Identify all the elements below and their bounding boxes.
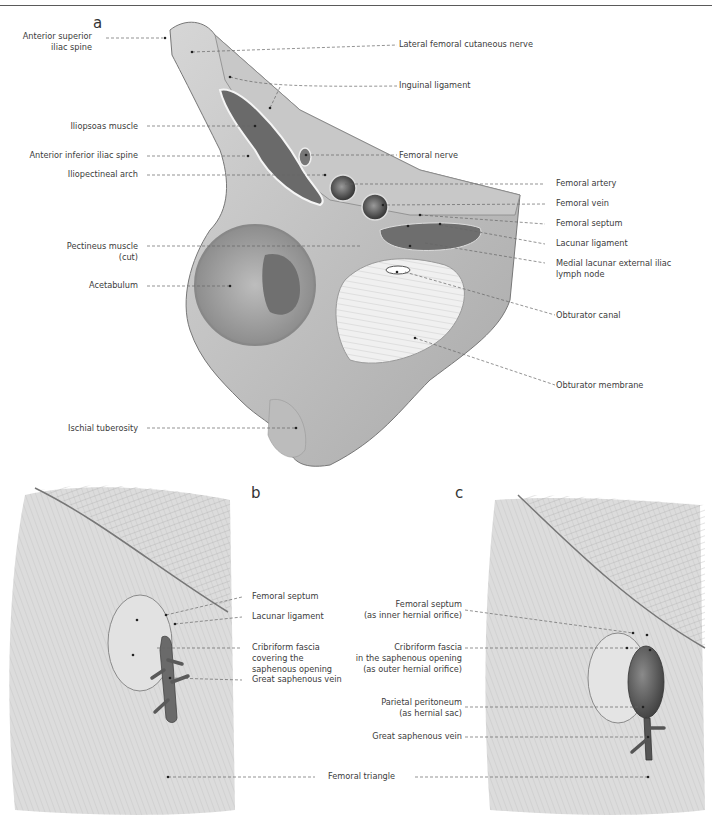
panel-letter-c: c xyxy=(455,484,463,502)
panel-c-femoral-hernia-illustration xyxy=(485,495,705,815)
label-obturator-canal: Obturator canal xyxy=(556,310,621,321)
label-acetabulum: Acetabulum xyxy=(89,280,138,291)
label-line-2: lymph node xyxy=(556,269,671,280)
label-line-2: (as hernial sac) xyxy=(381,708,462,719)
label-line-1: Cribriform fascia xyxy=(252,642,332,653)
panel-b-thigh-illustration xyxy=(9,485,235,814)
label-line-2: (cut) xyxy=(67,252,138,263)
label-c-cribriform-fascia: Cribriform fascia in the saphenous openi… xyxy=(356,642,462,675)
label-c-great-saphenous-vein: Great saphenous vein xyxy=(372,731,462,742)
label-b-lacunar-ligament: Lacunar ligament xyxy=(252,611,324,622)
label-pectineus-muscle: Pectineus muscle (cut) xyxy=(67,241,138,263)
label-lateral-femoral-cutaneous-nerve: Lateral femoral cutaneous nerve xyxy=(399,39,533,50)
label-femoral-triangle: Femoral triangle xyxy=(328,771,395,782)
label-inguinal-ligament: Inguinal ligament xyxy=(399,80,471,91)
label-lacunar-ligament: Lacunar ligament xyxy=(556,238,628,249)
label-femoral-artery: Femoral artery xyxy=(556,178,616,189)
label-iliopsoas-muscle: Iliopsoas muscle xyxy=(70,121,138,132)
label-line-1: Parietal peritoneum xyxy=(381,697,462,708)
label-line-1: Medial lacunar external iliac xyxy=(556,258,671,269)
panel-letter-a: a xyxy=(93,14,102,32)
label-line-2: in the saphenous opening xyxy=(356,653,462,664)
label-line-2: iliac spine xyxy=(23,42,92,53)
label-iliopectineal-arch: Iliopectineal arch xyxy=(68,169,138,180)
label-ischial-tuberosity: Ischial tuberosity xyxy=(68,423,138,434)
label-c-femoral-septum: Femoral septum (as inner hernial orifice… xyxy=(364,599,462,621)
label-b-great-saphenous-vein: Great saphenous vein xyxy=(252,674,342,685)
label-medial-lacunar-lymph-node: Medial lacunar external iliac lymph node xyxy=(556,258,671,280)
panel-letter-b: b xyxy=(251,484,261,502)
label-line-1: Pectineus muscle xyxy=(67,241,138,252)
label-femoral-nerve: Femoral nerve xyxy=(399,150,458,161)
label-line-1: Cribriform fascia xyxy=(356,642,462,653)
label-line-3: (as outer hernial orifice) xyxy=(356,664,462,675)
label-anterior-superior-iliac-spine: Anterior superior iliac spine xyxy=(23,31,92,53)
label-line-2: covering the xyxy=(252,653,332,664)
label-line-2: (as inner hernial orifice) xyxy=(364,610,462,621)
label-line-1: Anterior superior xyxy=(23,31,92,42)
label-femoral-vein: Femoral vein xyxy=(556,198,609,209)
label-b-femoral-septum: Femoral septum xyxy=(252,591,318,602)
label-line-1: Femoral septum xyxy=(364,599,462,610)
label-anterior-inferior-iliac-spine: Anterior inferior iliac spine xyxy=(29,150,138,161)
label-femoral-septum: Femoral septum xyxy=(556,218,622,229)
label-b-cribriform-fascia: Cribriform fascia covering the saphenous… xyxy=(252,642,332,675)
label-c-parietal-peritoneum: Parietal peritoneum (as hernial sac) xyxy=(381,697,462,719)
label-obturator-membrane: Obturator membrane xyxy=(556,380,643,391)
